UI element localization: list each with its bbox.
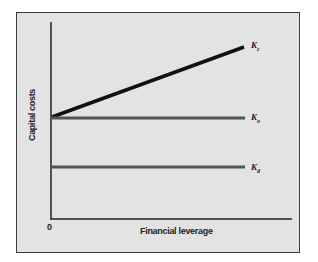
- y-axis-label: Capital costs: [27, 75, 37, 155]
- series-kc-label: Kc: [251, 40, 260, 52]
- x-axis-label: Financial leverage: [140, 226, 213, 236]
- series-kc-line: [52, 47, 244, 117]
- ko-sub: o: [257, 118, 260, 124]
- origin-tick-label: 0: [47, 222, 52, 232]
- kd-sub: d: [257, 168, 260, 174]
- series-ko-label: Ko: [251, 112, 260, 124]
- series-kd-label: Kd: [251, 162, 260, 174]
- kc-sub: c: [257, 46, 260, 52]
